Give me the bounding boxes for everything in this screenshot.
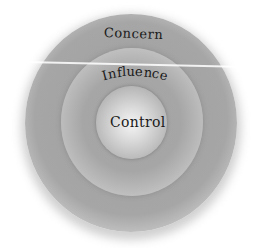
influence-label: Influence <box>102 65 168 80</box>
concern-label: Concern <box>104 25 164 42</box>
circles-of-concern-diagram: Concern Influence Control <box>0 0 253 248</box>
control-label: Control <box>110 114 165 130</box>
